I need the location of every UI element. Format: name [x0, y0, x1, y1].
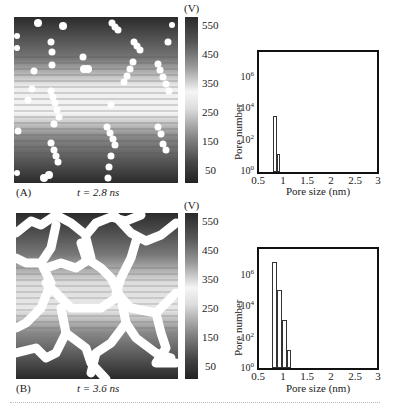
x-tick: 0.5	[251, 174, 265, 186]
y-tick: 106	[232, 70, 254, 82]
colorbar-tick: 50	[205, 164, 216, 176]
x-tick: 1	[280, 174, 286, 186]
x-tick: 1.5	[300, 370, 314, 382]
colorbar-tick: 150	[202, 331, 219, 343]
x-axis-label-a: Pore size (nm)	[286, 185, 350, 197]
y-tick: 102	[232, 133, 254, 145]
colorbar-tick: 550	[202, 19, 219, 31]
colorbar-tick: 450	[202, 244, 219, 256]
colorbar-unit-b: (V)	[184, 199, 199, 211]
x-tick: 3	[375, 370, 381, 382]
colorbar-b	[185, 213, 198, 379]
x-tick: 3	[375, 174, 381, 186]
colorbar-tick: 250	[202, 106, 219, 118]
x-tick: 2	[328, 370, 334, 382]
y-tick: 104	[232, 299, 254, 311]
y-tick: 104	[232, 101, 254, 113]
histogram-bar	[287, 350, 291, 368]
colorbar-tick: 450	[202, 48, 219, 60]
colorbar-tick: 550	[202, 215, 219, 227]
panel-label-a: (A)	[16, 186, 31, 198]
potential-map-b	[16, 213, 178, 379]
panel-label-b: (B)	[16, 382, 31, 394]
histogram-a	[257, 50, 379, 174]
colorbar-a	[185, 17, 198, 183]
x-axis-label-b: Pore size (nm)	[286, 382, 350, 394]
x-tick: 0.5	[251, 370, 265, 382]
caption-fragment	[10, 402, 380, 405]
histogram-b	[257, 247, 379, 370]
colorbar-tick: 350	[202, 77, 219, 89]
colorbar-unit-a: (V)	[184, 2, 199, 14]
y-tick: 106	[232, 268, 254, 280]
y-tick: 102	[232, 331, 254, 343]
x-tick: 1	[280, 370, 286, 382]
colorbar-tick: 50	[205, 360, 216, 372]
time-label-b: t = 3.6 ns	[77, 382, 119, 394]
potential-map-a	[14, 17, 178, 183]
histogram-bar	[277, 154, 280, 172]
x-tick: 2.5	[348, 370, 362, 382]
time-label-a: t = 2.8 ns	[77, 186, 119, 198]
figure: (V) 550 450 350 250 150 50 (A) t = 2.8 n…	[0, 0, 395, 409]
colorbar-tick: 350	[202, 273, 219, 285]
x-tick: 2.5	[348, 174, 362, 186]
colorbar-tick: 250	[202, 302, 219, 314]
colorbar-tick: 150	[202, 135, 219, 147]
